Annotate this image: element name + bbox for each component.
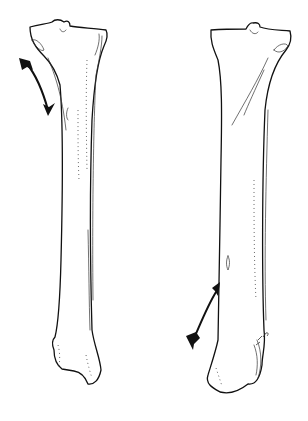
left-tibia-outline bbox=[30, 20, 107, 384]
figure bbox=[0, 0, 308, 421]
left-tibia bbox=[30, 20, 107, 384]
tibia-illustration bbox=[0, 0, 308, 421]
left-arrow-icon bbox=[19, 58, 55, 116]
right-tibia bbox=[207, 23, 290, 393]
right-tibia-outline bbox=[207, 23, 290, 393]
right-arrow-icon bbox=[186, 282, 220, 350]
